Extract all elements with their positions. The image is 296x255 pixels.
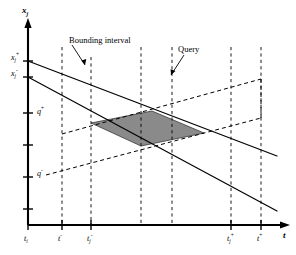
query-annotation: Query: [178, 45, 199, 54]
y-tick-label-xj-plus: xj+: [11, 52, 19, 64]
x-tick-label-tj-minus: tj-: [87, 233, 92, 245]
diagram-canvas: [0, 0, 296, 255]
x-tick-label-ti: ti: [24, 233, 28, 245]
x-axis-label: t: [283, 231, 286, 240]
q-plus-label: q+: [37, 106, 44, 116]
y-axis-label: xj: [22, 6, 28, 18]
q-minus-label: q-: [37, 168, 43, 178]
y-tick-label-xj-minus: xj-: [11, 68, 18, 80]
query-arrowhead: [171, 69, 176, 75]
x-tick-label-t-plus: t+: [257, 233, 262, 245]
x-tick-label-tj-plus: tj+: [227, 233, 234, 245]
figure-container: xj t xj+ xj- q+ q- ti t- tj- tj+ t+ Boun…: [0, 0, 296, 255]
x-tick-label-t-minus: t-: [58, 233, 62, 245]
y-axis-arrowhead: [24, 18, 31, 28]
x-axis-arrowhead: [280, 221, 290, 228]
bounding-interval-annotation: Bounding interval: [69, 36, 131, 45]
bounding-lower-line: [28, 77, 277, 211]
